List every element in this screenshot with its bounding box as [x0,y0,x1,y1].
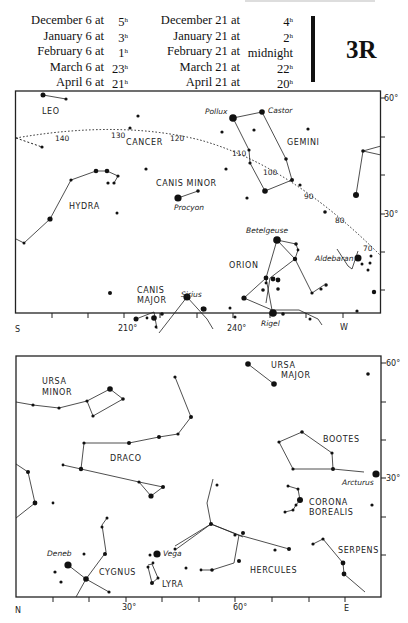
date-label: January 21 at [145,30,240,46]
svg-text:Vega: Vega [163,549,182,558]
svg-text:Aldebaran: Aldebaran [314,254,354,263]
date-label: January 6 at [0,30,104,46]
date-label: December 21 at [145,14,240,30]
svg-text:N: N [15,606,21,615]
star-rigel [269,309,277,317]
svg-text:SERPENS: SERPENS [338,546,379,555]
svg-text:Betelgeuse: Betelgeuse [246,226,288,235]
time-value: 2h [240,30,293,46]
star-betelgeuse [273,236,281,244]
svg-text:DRACO: DRACO [110,454,142,463]
time-value: 5h [104,14,128,30]
star-castor [259,109,265,115]
star-labels: Pollux Castor Procyon Betelgeuse Aldebar… [174,106,354,328]
svg-text:120: 120 [170,134,185,143]
svg-text:240°: 240° [227,324,246,333]
svg-text:HERCULES: HERCULES [250,566,297,575]
svg-text:URSA: URSA [271,361,296,370]
svg-text:S: S [15,325,20,334]
svg-text:210°: 210° [118,324,137,333]
star-vega [153,550,160,557]
date-row: January 21 at2h [145,30,293,46]
svg-text:CORONA: CORONA [309,498,348,507]
date-label: February 6 at [0,45,104,61]
plate-id: 3R [346,36,377,64]
svg-text:30°: 30° [384,210,398,219]
svg-text:Rigel: Rigel [261,319,281,328]
svg-text:W: W [340,323,348,332]
top-rule [245,0,375,2]
svg-text:60°: 60° [233,603,247,612]
left-date-column: December 6 at5h January 6 at3h February … [0,14,128,92]
svg-text:CANCER: CANCER [126,138,163,147]
star-arcturus [372,470,379,477]
time-value: 3h [104,30,128,46]
svg-text:MINOR: MINOR [42,388,72,397]
star-deneb [64,561,71,568]
date-row: February 21 atmidnight [145,45,293,61]
svg-text:LYRA: LYRA [162,580,183,589]
svg-text:110: 110 [232,149,247,158]
date-row: December 21 at4h [145,14,293,30]
axis-labels: 60° 30° 30° 60° N E [15,359,400,615]
svg-text:100: 100 [263,168,278,177]
svg-text:CANIS MINOR: CANIS MINOR [156,179,217,188]
svg-text:LEO: LEO [42,107,60,116]
stars [26,361,380,593]
axis-labels: 60° 30° 210° 240° S W [15,94,398,334]
header: December 6 at5h January 6 at3h February … [0,0,408,88]
date-label: March 6 at [0,61,104,77]
svg-text:60°: 60° [384,94,398,103]
star-aldebaran [355,255,362,262]
star-procyon [174,194,181,201]
svg-text:Procyon: Procyon [174,203,204,212]
svg-text:BOREALIS: BOREALIS [309,508,353,517]
svg-text:30°: 30° [386,474,400,483]
date-row: February 6 at1h [0,45,128,61]
right-date-column: December 21 at4h January 21 at2h Februar… [145,14,293,92]
svg-text:ORION: ORION [229,261,259,270]
north-sky-chart: 60° 30° 30° 60° N E URSA MINOR [0,345,408,623]
svg-text:E: E [344,604,349,613]
svg-text:CANIS: CANIS [137,286,164,295]
date-row: March 21 at22h [145,61,293,77]
date-row: December 6 at5h [0,14,128,30]
date-label: March 21 at [145,61,240,77]
time-value: 22h [240,61,293,77]
svg-text:HYDRA: HYDRA [69,202,100,211]
time-value: 23h [104,61,128,77]
ecliptic-labels: 140 130 120 110 100 90 80 70 [55,131,373,253]
svg-text:Arcturus: Arcturus [341,478,374,487]
date-label: December 6 at [0,14,104,30]
south-sky-chart: 60° 30° 210° 240° S W 140 130 120 110 10… [0,85,408,335]
svg-text:140: 140 [55,134,70,143]
svg-text:90: 90 [304,192,314,201]
divider-bar [311,16,315,82]
svg-text:Pollux: Pollux [205,107,228,116]
time-value: 1h [104,45,128,61]
star-pollux [229,114,237,122]
date-label: February 21 at [145,45,240,61]
date-row: March 6 at23h [0,61,128,77]
svg-text:30°: 30° [122,603,136,612]
time-value: 4h [240,14,293,30]
svg-text:Sirius: Sirius [181,290,202,299]
svg-text:70: 70 [363,244,373,253]
constellation-labels: URSA MINOR URSA MAJOR DRACO BOOTES CORON… [42,361,379,589]
svg-text:Castor: Castor [268,106,293,115]
svg-text:80: 80 [335,216,345,225]
svg-text:130: 130 [111,131,126,140]
svg-text:MAJOR: MAJOR [281,371,311,380]
svg-text:MAJOR: MAJOR [137,296,167,305]
svg-text:CYGNUS: CYGNUS [99,568,136,577]
svg-text:Deneb: Deneb [47,549,72,558]
date-row: January 6 at3h [0,30,128,46]
svg-text:BOOTES: BOOTES [323,435,360,444]
svg-text:GEMINI: GEMINI [287,138,319,147]
svg-text:60°: 60° [386,359,400,368]
time-value: midnight [240,45,293,61]
svg-text:URSA: URSA [42,377,67,386]
